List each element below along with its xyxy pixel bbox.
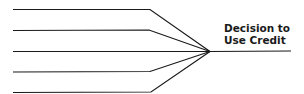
converging-lines-diagram bbox=[0, 0, 304, 94]
decision-label-line-1: Decision to bbox=[224, 22, 290, 34]
output-line bbox=[210, 51, 291, 52]
input-line-2 bbox=[13, 30, 210, 52]
decision-label: Decision to Use Credit bbox=[224, 22, 290, 46]
decision-label-line-2: Use Credit bbox=[224, 34, 290, 46]
input-line-4 bbox=[13, 52, 210, 73]
